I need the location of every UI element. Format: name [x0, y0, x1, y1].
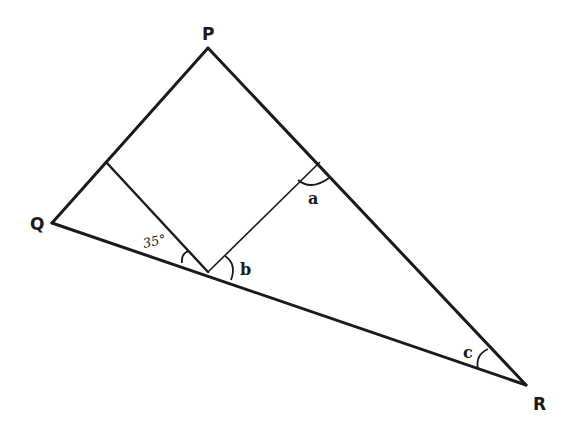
- angle-arc-35: [182, 251, 189, 263]
- segment-left-foot-to-bottom: [106, 162, 208, 272]
- segment-bottom-to-right-foot: [208, 162, 320, 272]
- angle-label-a: a: [308, 189, 318, 208]
- angle-label-35: 35°: [142, 231, 168, 250]
- vertex-label-Q: Q: [30, 214, 44, 234]
- vertex-label-R: R: [533, 394, 546, 414]
- angle-arc-c: [477, 349, 488, 369]
- triangle-diagram: P Q R 35° a b c: [0, 0, 574, 435]
- side-QR: [52, 223, 526, 385]
- angle-arc-b: [225, 256, 233, 280]
- side-PQ: [52, 48, 208, 223]
- side-PR: [208, 48, 526, 385]
- angle-label-b: b: [240, 260, 251, 279]
- vertex-label-P: P: [202, 24, 214, 44]
- angle-label-c: c: [463, 343, 473, 362]
